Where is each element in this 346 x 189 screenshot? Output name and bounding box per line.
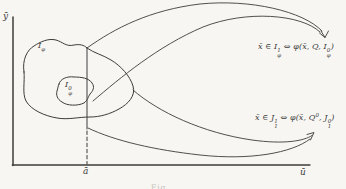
inner-set-subscript: φ (68, 91, 72, 96)
formula-bottom-part1: x̄ ∈ J (255, 113, 274, 122)
x-axis-label: ū (300, 168, 306, 177)
inner-set-blob (57, 77, 94, 105)
formula-bottom-part2: ⇔ φ(x̄, Q (278, 113, 316, 122)
formula-top-part1: x̄ ∈ I (258, 42, 277, 51)
formula-bottom-sub1: 1 (274, 124, 278, 129)
figure-page: ȳ ū ā Iφ I0φ x̄ ∈ I1φ ⇔ φ(x̄, Q, I0φ) x̄… (0, 0, 346, 189)
inner-set-supsub: 0φ (68, 86, 72, 95)
diagram-canvas (0, 0, 346, 189)
marker-label: ā (83, 167, 88, 176)
formula-top-part3: ) (331, 42, 334, 51)
formula-top: x̄ ∈ I1φ ⇔ φ(x̄, Q, I0φ) (258, 43, 334, 57)
formula-top-sub1: φ (277, 53, 281, 58)
curve-top-inner (93, 16, 320, 101)
outer-set-label: Iφ (38, 42, 45, 52)
y-axis-label: ȳ (3, 12, 8, 21)
formula-bottom-part4: ) (331, 113, 334, 122)
formula-bottom-sub2: 1 (328, 124, 332, 129)
formula-bottom-part3: , J (319, 113, 328, 122)
outer-set-subscript: φ (41, 46, 45, 52)
inner-set-label: I0φ (65, 81, 72, 95)
arrowhead-top (320, 31, 329, 38)
formula-top-part2: ⇔ φ(x̄, Q, I (281, 42, 327, 51)
formula-bottom: x̄ ∈ J11 ⇔ φ(x̄, Q0, J01) (255, 112, 334, 128)
caption-fragment: Fig. (151, 183, 170, 189)
formula-top-sub2: φ (327, 53, 331, 58)
